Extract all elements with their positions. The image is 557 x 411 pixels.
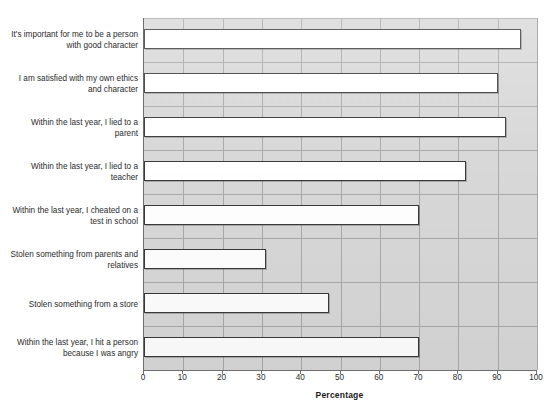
x-axis-tick-label: 80 [442, 373, 472, 382]
bar[interactable] [144, 117, 506, 137]
x-axis-tick-label: 50 [325, 373, 355, 382]
bar-slot [144, 106, 537, 150]
category-label: I am satisfied with my own ethicsand cha… [4, 73, 138, 95]
plot-area [143, 18, 537, 371]
category-label: Within the last year, I lied to aparent [4, 117, 138, 139]
bar-slot [144, 150, 537, 194]
bar[interactable] [144, 337, 419, 357]
category-label: Within the last year, I cheated on atest… [4, 205, 138, 227]
bar[interactable] [144, 249, 266, 269]
category-label: Stolen something from parents andrelativ… [4, 249, 138, 271]
bar-slot [144, 326, 537, 370]
category-label: Within the last year, I hit a personbeca… [4, 337, 138, 359]
category-label-line: Stolen something from parents and [4, 249, 138, 260]
category-label-line: It's important for me to be a person [4, 29, 138, 40]
category-label-line: teacher [4, 172, 138, 183]
category-label-line: relatives [4, 260, 138, 271]
bar-slot [144, 194, 537, 238]
category-label-line: I am satisfied with my own ethics [4, 73, 138, 84]
category-label-line: test in school [4, 216, 138, 227]
category-label-line: Stolen something from a store [4, 299, 138, 310]
x-axis-tick-label: 20 [207, 373, 237, 382]
bar-slot [144, 282, 537, 326]
bar[interactable] [144, 293, 329, 313]
category-label: It's important for me to be a personwith… [4, 29, 138, 51]
x-axis-tick-label: 70 [403, 373, 433, 382]
bar-slot [144, 238, 537, 282]
category-label-line: parent [4, 128, 138, 139]
category-label: Within the last year, I lied to ateacher [4, 161, 138, 183]
x-axis-tick-label: 10 [167, 373, 197, 382]
category-label-line: Within the last year, I hit a person [4, 337, 138, 348]
bar[interactable] [144, 205, 419, 225]
category-label: Stolen something from a store [4, 299, 138, 310]
category-label-line: Within the last year, I lied to a [4, 117, 138, 128]
category-label-line: Within the last year, I lied to a [4, 161, 138, 172]
bar-slot [144, 62, 537, 106]
bar[interactable] [144, 29, 521, 49]
x-axis-tick-label: 40 [285, 373, 315, 382]
x-axis-tick-label: 30 [246, 373, 276, 382]
x-axis-tick-label: 100 [521, 373, 551, 382]
category-label-line: with good character [4, 40, 138, 51]
x-axis-tick-label: 60 [364, 373, 394, 382]
x-axis-tick-label: 90 [482, 373, 512, 382]
category-label-line: because I was angry [4, 348, 138, 359]
bar[interactable] [144, 161, 466, 181]
x-axis-title: Percentage [143, 390, 536, 400]
category-label-line: and character [4, 84, 138, 95]
x-axis-tick-label: 0 [128, 373, 158, 382]
chart-title-cropped [143, 0, 536, 2]
gridline-vertical [537, 18, 538, 370]
category-label-line: Within the last year, I cheated on a [4, 205, 138, 216]
bar-slot [144, 18, 537, 62]
bar[interactable] [144, 73, 498, 93]
bar-chart: It's important for me to be a personwith… [0, 0, 557, 411]
